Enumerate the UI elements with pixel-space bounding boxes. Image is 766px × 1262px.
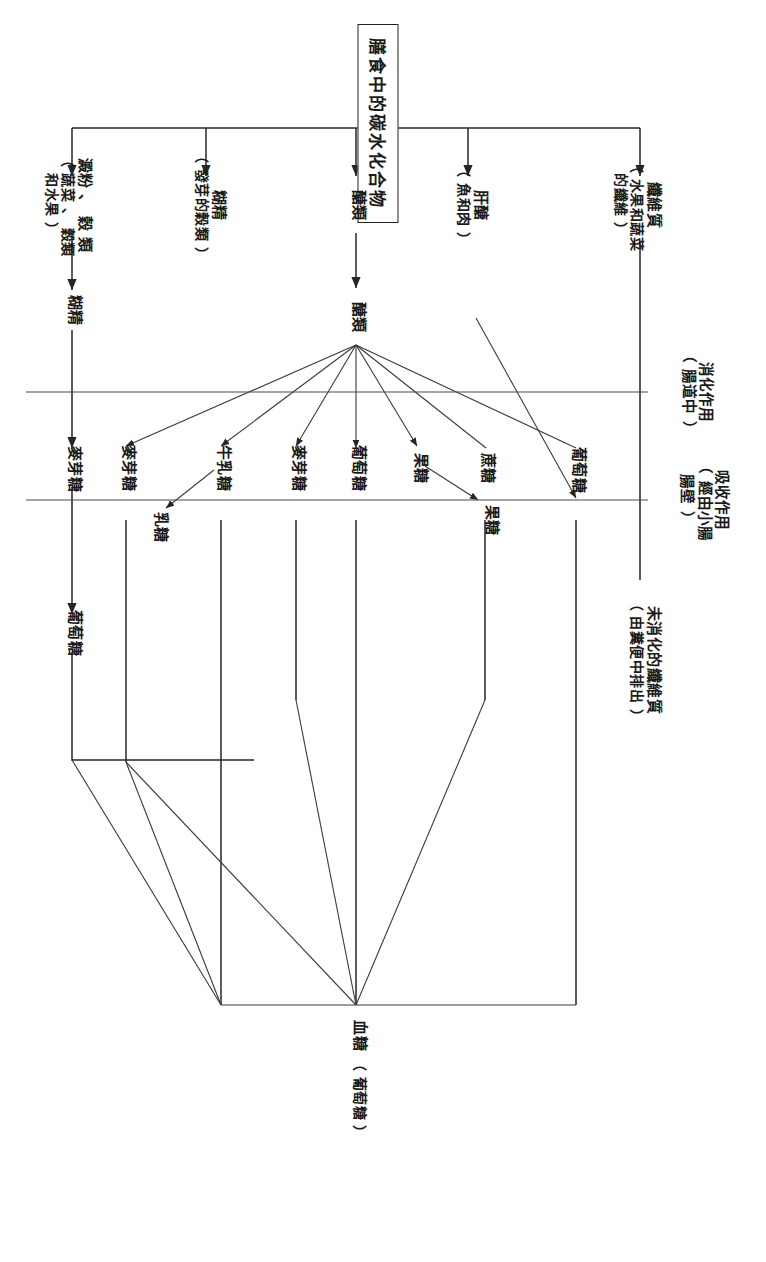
product-sucrose-name: 蔗糖	[479, 453, 496, 484]
source-node-starch: 澱粉 、 穀 類 （ 蔬菜 、 穀類 和水果 ）	[44, 153, 93, 256]
product-node-glucose-row1: 葡萄糖	[66, 610, 83, 657]
product-glucose-row1-name: 葡萄糖	[66, 610, 83, 657]
phase-absorption-line1: 吸收作用	[713, 459, 730, 540]
product-fructose-a-name: 果糖	[483, 505, 500, 536]
product-maltose-b-name: 麥芽糖	[120, 445, 137, 492]
source-node-dextrin: 糊精 （ 發芽的穀類 ）	[194, 149, 227, 261]
product-node-glucose-top: 葡萄糖	[570, 447, 587, 494]
outcome-blood-sugar-detail: （ 葡萄糖 ）	[352, 1057, 368, 1140]
product-node-sucrose: 蔗糖	[479, 453, 496, 484]
stage2-node-sugars: 醣類	[350, 302, 367, 333]
source-node-sugars: 醣類	[350, 190, 367, 221]
phase-label-digestion: 消化作用 （ 腸道中 ）	[679, 348, 714, 435]
source-starch-detail-2: 和水果 ）	[44, 153, 60, 256]
product-node-maltose-a: 麥芽糖	[290, 445, 307, 492]
outcome-undigested-fiber-detail: （ 由糞便中排出 ）	[629, 597, 645, 724]
diagram-canvas: 膳食中的碳水化合物 消化作用 （ 腸道中 ） 吸收作用 （ 經由小腸 腸壁 ） …	[0, 0, 766, 1262]
product-lactose-milk-name: 牛乳糖	[215, 445, 232, 492]
phase-digestion-line2: （ 腸道中 ）	[679, 348, 696, 435]
outcome-node-undigested-fiber: 未消化的纖維質 （ 由糞便中排出 ）	[629, 597, 662, 724]
diagram-title: 膳食中的碳水化合物	[367, 38, 387, 209]
product-node-fructose-b: 果糖	[412, 453, 429, 484]
product-node-maltose-row1: 麥芽糖	[66, 446, 83, 493]
product-lactose-name: 乳糖	[152, 512, 169, 543]
stage2-node-dextrin: 糊精	[66, 295, 83, 326]
outcome-node-blood-sugar: 血糖 （ 葡萄糖 ）	[351, 1020, 368, 1140]
source-dextrin-detail-1: （ 發芽的穀類 ）	[194, 149, 210, 261]
phase-absorption-line3: 腸壁 ）	[678, 459, 695, 540]
outcome-undigested-fiber-name: 未消化的纖維質	[645, 597, 662, 724]
source-starch-name: 澱粉 、 穀 類	[76, 153, 93, 256]
product-maltose-a-name: 麥芽糖	[290, 445, 307, 492]
product-glucose-mid-name: 葡萄糖	[350, 445, 367, 492]
source-glycogen-name: 肝醣	[472, 163, 489, 246]
stage2-sugars-name: 醣類	[350, 302, 367, 333]
phase-label-absorption: 吸收作用 （ 經由小腸 腸壁 ）	[678, 459, 730, 540]
source-node-glycogen: 肝醣 （ 魚和肉 ）	[456, 163, 489, 246]
stage2-dextrin-name: 糊精	[66, 295, 83, 326]
product-node-lactose-milk: 牛乳糖	[215, 445, 232, 492]
outcome-blood-sugar-name: 血糖	[351, 1020, 369, 1051]
product-glucose-top-name: 葡萄糖	[570, 447, 587, 494]
source-glycogen-detail-1: （ 魚和肉 ）	[456, 163, 472, 246]
source-fiber-detail-2: 的纖維 ）	[613, 159, 629, 251]
product-fructose-b-name: 果糖	[412, 453, 429, 484]
product-node-lactose: 乳糖	[152, 512, 169, 543]
product-node-glucose-mid: 葡萄糖	[350, 445, 367, 492]
product-node-fructose-a: 果糖	[483, 505, 500, 536]
source-fiber-name: 纖維質	[645, 159, 662, 251]
product-node-maltose-b: 麥芽糖	[120, 445, 137, 492]
source-node-fiber: 纖維質 （ 水果和蔬菜 的纖維 ）	[613, 159, 662, 251]
phase-absorption-line2: （ 經由小腸	[695, 459, 712, 540]
product-maltose-row1-name: 麥芽糖	[66, 446, 83, 493]
source-dextrin-name: 糊精	[210, 149, 227, 261]
source-starch-detail-1: （ 蔬菜 、 穀類	[60, 153, 76, 256]
source-sugars-name: 醣類	[350, 190, 367, 221]
phase-digestion-line1: 消化作用	[697, 348, 714, 435]
source-fiber-detail-1: （ 水果和蔬菜	[629, 159, 645, 251]
